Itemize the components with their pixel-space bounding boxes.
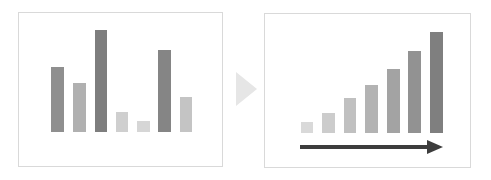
bar-4 [116, 112, 128, 132]
bar-4 [365, 85, 378, 133]
bar-5 [137, 121, 150, 132]
transition-arrow-icon [236, 72, 257, 106]
bar-7 [430, 32, 443, 133]
bar-7 [180, 97, 192, 132]
right-panel-label: Sorted ascending bars [0, 0, 10, 1]
direction-arrow-shaft [300, 145, 429, 149]
bar-2 [322, 113, 335, 133]
unsorted-chart-panel [18, 12, 223, 167]
bar-1 [51, 67, 64, 132]
bar-3 [344, 98, 356, 133]
bar-3 [95, 30, 107, 132]
bar-5 [387, 69, 400, 133]
direction-arrow-head-icon [427, 140, 443, 154]
bar-1 [301, 122, 313, 133]
bar-6 [408, 51, 421, 133]
bar-6 [158, 50, 171, 132]
bar-2 [73, 83, 86, 132]
